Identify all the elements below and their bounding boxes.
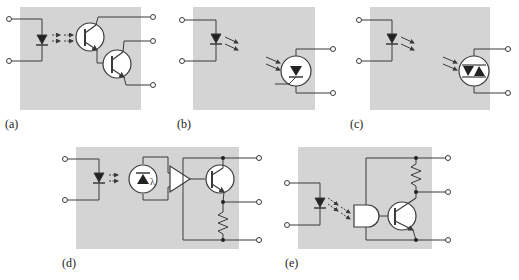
terminal [7,17,12,22]
terminal [180,59,185,64]
junction-dot [414,156,418,160]
junction-dot [221,200,225,204]
terminal [331,47,336,52]
panel-label-b: (b) [177,117,191,132]
terminal [63,157,68,162]
panel-b [180,7,336,110]
terminal [151,39,156,44]
panel-label-e: (e) [285,256,298,271]
terminal [331,91,336,96]
terminal [151,83,156,88]
svg-text:λ: λ [150,176,155,187]
terminal [257,156,262,161]
terminal [446,156,451,161]
terminal [285,223,290,228]
panel-d: λ [63,147,262,249]
terminal [506,91,511,96]
junction-dot [221,238,225,242]
terminal [446,238,451,243]
panel-label-d: (d) [62,256,76,271]
terminal [180,18,185,23]
terminal [446,190,451,195]
optocoupler-figure: λ [0,0,519,280]
panel-label-a: (a) [5,117,18,132]
panel-a [7,7,156,110]
terminal [285,181,290,186]
junction-dot [414,238,418,242]
terminal [357,59,362,64]
terminal [257,200,262,205]
terminal [7,59,12,64]
terminal [257,238,262,243]
panel-c [357,7,511,110]
junction-dot [414,190,418,194]
terminal [63,198,68,203]
junction-dot [221,156,225,160]
panel-label-c: (c) [350,117,363,132]
terminal [506,47,511,52]
terminal [357,18,362,23]
terminal [151,15,156,20]
panel-e [285,147,451,249]
